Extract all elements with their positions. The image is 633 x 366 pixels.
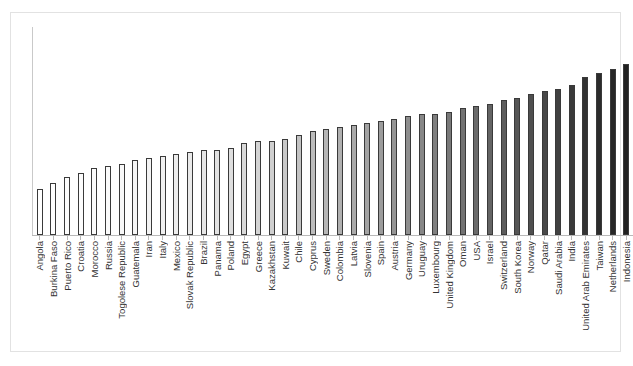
bar-burkina-faso[interactable] (50, 183, 56, 235)
tick-slot (183, 236, 197, 240)
bar-south-korea[interactable] (514, 98, 520, 235)
bar-cyprus[interactable] (310, 131, 316, 235)
bar-slot (347, 27, 361, 235)
bar-united-kingdom[interactable] (446, 112, 452, 235)
label-slot: Slovak Republic (183, 241, 197, 361)
tick-slot (306, 236, 320, 240)
bar-kuwait[interactable] (282, 139, 288, 235)
bar-slot (510, 27, 524, 235)
bar-slovak-republic[interactable] (187, 152, 193, 235)
bar-croatia[interactable] (78, 173, 84, 235)
label-slot: Kuwait (279, 241, 293, 361)
x-tick (449, 236, 450, 240)
x-axis-label: Iran (143, 241, 154, 257)
bar-slot (319, 27, 333, 235)
bar-saudi-arabia[interactable] (555, 89, 561, 235)
x-axis-label: Spain (375, 241, 386, 265)
bar-taiwan[interactable] (596, 73, 602, 235)
x-tick (489, 236, 490, 240)
label-slot: South Korea (510, 241, 524, 361)
x-tick (339, 236, 340, 240)
bar-slot (88, 27, 102, 235)
bar-guatemala[interactable] (132, 160, 138, 235)
bar-slot (279, 27, 293, 235)
bar-uruguay[interactable] (419, 114, 425, 235)
bar-angola[interactable] (37, 189, 43, 235)
bar-norway[interactable] (528, 94, 534, 235)
bar-netherlands[interactable] (610, 69, 616, 235)
tick-slot (265, 236, 279, 240)
x-axis-label: Egypt (239, 241, 250, 265)
bar-slot (60, 27, 74, 235)
label-slot: Greece (251, 241, 265, 361)
label-slot: Luxembourg (429, 241, 443, 361)
tick-slot (579, 236, 593, 240)
label-slot: Russia (101, 241, 115, 361)
tick-slot (524, 236, 538, 240)
x-tick (312, 236, 313, 240)
x-tick (612, 236, 613, 240)
tick-slot (401, 236, 415, 240)
bar-germany[interactable] (405, 116, 411, 235)
bar-puerto-rico[interactable] (64, 177, 70, 235)
bar-slot (360, 27, 374, 235)
tick-slot (238, 236, 252, 240)
bar-indonesia[interactable] (623, 64, 629, 235)
bar-italy[interactable] (160, 156, 166, 235)
x-tick (244, 236, 245, 240)
bar-colombia[interactable] (337, 127, 343, 235)
bar-sweden[interactable] (323, 129, 329, 235)
bar-india[interactable] (569, 85, 575, 235)
bar-usa[interactable] (473, 106, 479, 235)
bar-israel[interactable] (487, 104, 493, 235)
x-tick (394, 236, 395, 240)
tick-slot (292, 236, 306, 240)
label-slot: USA (470, 241, 484, 361)
x-tick (94, 236, 95, 240)
label-slot: Israel (483, 241, 497, 361)
label-slot: Spain (374, 241, 388, 361)
bar-slot (265, 27, 279, 235)
bar-chile[interactable] (296, 135, 302, 235)
tick-slot (429, 236, 443, 240)
bar-slovenia[interactable] (364, 123, 370, 235)
bar-spain[interactable] (378, 121, 384, 235)
tick-slot (592, 236, 606, 240)
bar-slot (183, 27, 197, 235)
bar-slot (415, 27, 429, 235)
bar-egypt[interactable] (241, 143, 247, 235)
bar-greece[interactable] (255, 141, 261, 235)
x-tick (558, 236, 559, 240)
bar-morocco[interactable] (91, 168, 97, 235)
x-tick (408, 236, 409, 240)
bar-panama[interactable] (214, 150, 220, 235)
bar-iran[interactable] (146, 158, 152, 235)
bar-slot (101, 27, 115, 235)
bar-united-arab-emirates[interactable] (582, 77, 588, 235)
x-axis-label: Kazakhstan (266, 241, 277, 291)
bar-poland[interactable] (228, 148, 234, 235)
x-axis-label: Norway (525, 241, 536, 273)
bar-russia[interactable] (105, 166, 111, 235)
bar-switzerland[interactable] (501, 100, 507, 235)
bar-latvia[interactable] (351, 125, 357, 235)
x-tick (462, 236, 463, 240)
bar-togolese-republic[interactable] (119, 164, 125, 235)
label-slot: Panama (210, 241, 224, 361)
bar-oman[interactable] (460, 108, 466, 235)
bar-austria[interactable] (391, 119, 397, 235)
bar-luxembourg[interactable] (432, 114, 438, 235)
x-axis-label: Slovak Republic (184, 241, 195, 309)
bar-brazil[interactable] (201, 150, 207, 235)
tick-slot (128, 236, 142, 240)
bar-qatar[interactable] (542, 91, 548, 235)
bar-slot (156, 27, 170, 235)
tick-slot (388, 236, 402, 240)
x-tick (80, 236, 81, 240)
bar-mexico[interactable] (173, 154, 179, 235)
label-slot: Oman (456, 241, 470, 361)
label-slot: Germany (401, 241, 415, 361)
label-slot: Burkina Faso (47, 241, 61, 361)
bar-kazakhstan[interactable] (269, 141, 275, 235)
x-axis-label: Taiwan (594, 241, 605, 271)
